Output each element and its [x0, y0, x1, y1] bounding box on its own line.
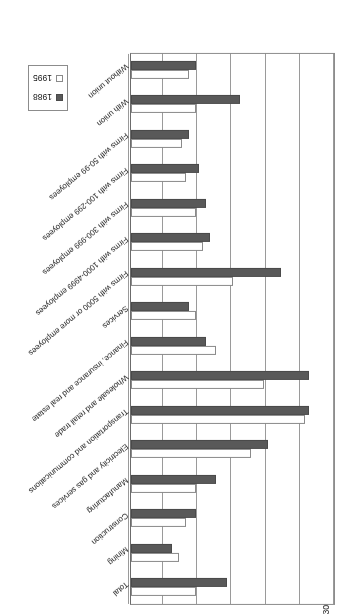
bar-1995	[131, 449, 251, 458]
bar-1988	[131, 440, 268, 449]
bar-group	[131, 328, 334, 363]
bar-1988	[131, 578, 227, 587]
bar-group	[131, 466, 334, 501]
category-label: Services	[101, 304, 130, 331]
category-label: Firms with 300-999 employees	[41, 200, 130, 277]
rotated-figure-wrapper: Average number 051015202530 TotalMiningC…	[0, 0, 362, 614]
bar-group	[131, 190, 334, 225]
bar-1988	[131, 95, 240, 104]
category-label: Without union	[87, 62, 130, 100]
bar-group	[131, 501, 334, 536]
bar-1988	[131, 406, 309, 415]
bar-1988	[131, 61, 196, 70]
bar-1995	[131, 70, 189, 79]
bar-1988	[131, 509, 196, 518]
bar-1995	[131, 242, 203, 251]
bar-group	[131, 294, 334, 329]
category-label: Total	[111, 580, 130, 598]
plot-area	[130, 53, 335, 605]
category-label: Manufacturing	[85, 476, 130, 515]
legend-item-1995: 1995	[33, 69, 63, 88]
legend-item-1988: 1988	[33, 88, 63, 107]
category-label: Firms with 50-99 employees	[47, 131, 129, 202]
bar-group	[131, 397, 334, 432]
bar-1995	[131, 104, 196, 113]
category-label: Electricity and gas services	[50, 442, 130, 511]
bar-1988	[131, 199, 206, 208]
bar-1988	[131, 164, 199, 173]
bar-1995	[131, 518, 186, 527]
bar-group	[131, 87, 334, 122]
category-label: With union	[95, 97, 130, 128]
bar-1995	[131, 346, 216, 355]
bar-1988	[131, 475, 216, 484]
bar-group	[131, 432, 334, 467]
tick-label: 30	[321, 605, 331, 614]
bar-1988	[131, 233, 210, 242]
bar-1995	[131, 139, 182, 148]
bar-chart-figure: Average number 051015202530 TotalMiningC…	[0, 0, 362, 614]
bar-1995	[131, 553, 179, 562]
category-label: Mining	[106, 545, 130, 567]
bar-1995	[131, 173, 186, 182]
bar-1995	[131, 208, 196, 217]
legend-label-1988: 1988	[33, 93, 52, 103]
bar-group	[131, 363, 334, 398]
bar-1995	[131, 277, 234, 286]
bar-group	[131, 121, 334, 156]
chart-legend: 1988 1995	[28, 65, 68, 111]
bar-1988	[131, 371, 309, 380]
bar-1988	[131, 268, 281, 277]
bar-1988	[131, 544, 172, 553]
bar-1995	[131, 484, 196, 493]
bar-group	[131, 52, 334, 87]
bar-group	[131, 570, 334, 605]
bar-1988	[131, 302, 189, 311]
bar-group	[131, 156, 334, 191]
category-label: Construction	[90, 511, 130, 547]
bar-group	[131, 535, 334, 570]
bar-1995	[131, 415, 305, 424]
bar-1988	[131, 130, 189, 139]
bar-1988	[131, 337, 206, 346]
bar-1995	[131, 311, 196, 320]
category-label: Wholesale and retail trade	[53, 373, 130, 440]
legend-swatch-1995-icon	[56, 75, 63, 82]
legend-label-1995: 1995	[33, 74, 52, 84]
bar-1995	[131, 587, 196, 596]
legend-swatch-1988-icon	[56, 94, 63, 101]
bar-1995	[131, 380, 264, 389]
bar-group	[131, 225, 334, 260]
bar-group	[131, 259, 334, 294]
